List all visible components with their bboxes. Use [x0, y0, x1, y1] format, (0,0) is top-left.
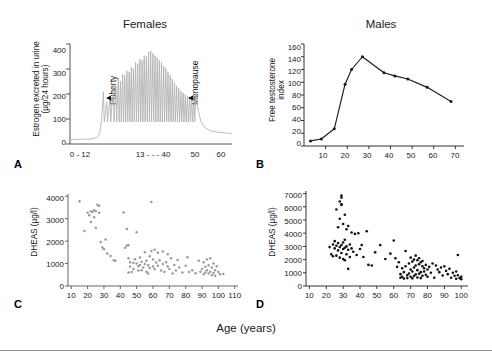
panel-a-y-ticks [66, 44, 70, 144]
panel-c-scatter-points [78, 200, 224, 277]
panel-d-plot [246, 172, 492, 312]
panel-a: Females Estrogen excreted in urine (µg/2… [0, 0, 246, 172]
panel-c-letter: C [14, 298, 22, 310]
panel-d: DHEAS (µg/l) 0 1000 2000 3000 4000 5000 … [246, 172, 492, 312]
panel-b: Males Free testosterone index 0 20 40 60… [246, 0, 492, 172]
panel-b-data-markers [309, 55, 453, 142]
panel-d-scatter-points [328, 194, 462, 280]
bottom-divider [0, 350, 492, 351]
panel-a-puberty-arrow-icon [106, 96, 111, 101]
panel-c-plot [0, 172, 246, 312]
figure-root: Females Estrogen excreted in urine (µg/2… [0, 0, 492, 357]
shared-x-axis-label: Age (years) [176, 322, 316, 334]
panel-c: DHEAS (µg/l) 0 1000 2000 3000 4000 10203… [0, 172, 246, 312]
panel-a-menopause-arrow-icon [188, 96, 193, 101]
panel-b-plot [246, 0, 492, 172]
panel-b-testosterone-line [310, 57, 451, 141]
panel-b-letter: B [256, 158, 264, 170]
panel-a-estrogen-curve [70, 51, 232, 139]
panel-d-letter: D [256, 298, 264, 310]
panel-a-letter: A [14, 158, 22, 170]
panel-a-plot [0, 0, 246, 172]
